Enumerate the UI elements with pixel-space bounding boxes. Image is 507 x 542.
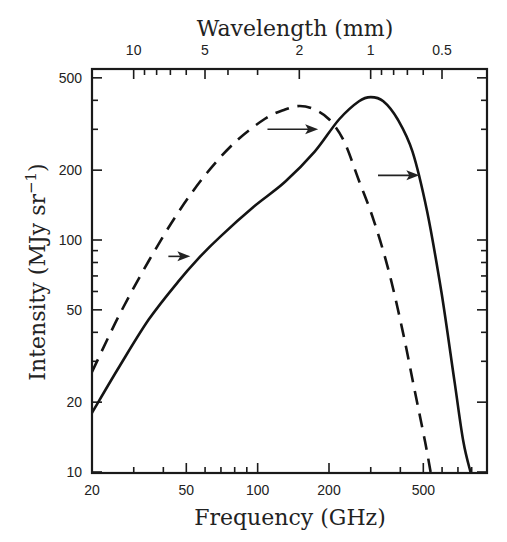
data-series (92, 97, 471, 472)
y-tick-label: 200 (59, 162, 83, 178)
y-axis-title: Intensity (MJy sr−1) (22, 163, 50, 380)
y-tick-label: 100 (59, 232, 83, 248)
right-arrow-icon (267, 124, 318, 134)
x-tick-label: 20 (84, 482, 100, 498)
right-arrow-icon (168, 251, 190, 261)
chart: 2050100200500105210.5102050100200500 Wav… (0, 0, 507, 542)
top-tick-label: 1 (367, 42, 375, 58)
x-tick-label: 500 (412, 482, 436, 498)
x-tick-label: 50 (179, 482, 195, 498)
y-tick-label: 500 (59, 70, 83, 86)
x-tick-label: 200 (317, 482, 341, 498)
annotation-arrows (168, 124, 419, 261)
y-axis-title-main: Intensity (MJy sr (25, 194, 50, 381)
top-axis-title: Wavelength (mm) (197, 16, 393, 41)
y-tick-label: 20 (66, 394, 82, 410)
x-tick-label: 100 (246, 482, 270, 498)
top-tick-label: 0.5 (432, 42, 452, 58)
solid-curve (92, 97, 471, 472)
top-tick-label: 10 (126, 42, 142, 58)
dashed-curve (92, 106, 431, 472)
y-axis-title-sup: −1 (22, 172, 40, 194)
y-tick-label: 50 (66, 302, 82, 318)
top-tick-label: 2 (295, 42, 303, 58)
top-tick-label: 5 (201, 42, 209, 58)
x-axis-title: Frequency (GHz) (194, 505, 386, 530)
right-arrow-icon (378, 170, 419, 180)
y-axis-title-end: ) (25, 163, 50, 172)
y-tick-label: 10 (66, 464, 82, 480)
